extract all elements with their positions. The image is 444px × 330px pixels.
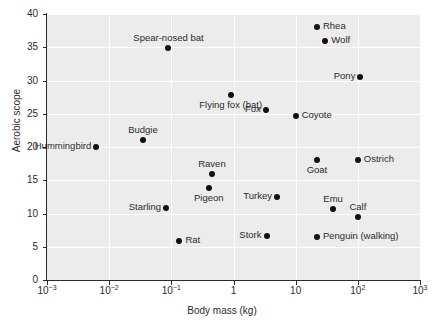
data-point-label: Rat bbox=[185, 235, 200, 245]
data-point-label: Starling bbox=[129, 202, 161, 212]
y-axis-tick-label: 35 bbox=[12, 42, 38, 52]
data-point-label: Hummingbird bbox=[35, 141, 92, 151]
data-point-label: Pigeon bbox=[194, 193, 224, 203]
x-axis-tick-label: 10−3 bbox=[27, 285, 67, 296]
data-point-label: Pony bbox=[334, 71, 356, 81]
data-point-label: Wolf bbox=[331, 35, 350, 45]
gridline-vertical bbox=[234, 14, 235, 280]
y-axis-title: Aerobic scope bbox=[11, 71, 22, 171]
y-axis-tick-label: 15 bbox=[12, 175, 38, 185]
gridline-vertical bbox=[296, 14, 297, 280]
y-axis-tick-label: 40 bbox=[12, 9, 38, 19]
x-axis-title: Body mass (kg) bbox=[0, 305, 444, 316]
y-axis-tick bbox=[43, 47, 47, 48]
data-point-label: Goat bbox=[307, 165, 328, 175]
data-point bbox=[293, 113, 299, 119]
x-axis-tick-label: 102 bbox=[338, 285, 378, 296]
data-point bbox=[274, 194, 280, 200]
data-point bbox=[330, 206, 336, 212]
y-axis-tick bbox=[43, 247, 47, 248]
data-point bbox=[322, 38, 328, 44]
aerobic-scope-scatter-figure: 051015202530354010−310−210−1110102103 Hu… bbox=[0, 0, 444, 330]
x-axis-tick-label: 10−1 bbox=[151, 285, 191, 296]
data-point-label: Coyote bbox=[302, 110, 332, 120]
y-axis-tick bbox=[43, 214, 47, 215]
data-point-label: Spear-nosed bat bbox=[133, 33, 203, 43]
data-point bbox=[264, 233, 270, 239]
x-axis-tick-label: 1 bbox=[214, 285, 254, 296]
y-axis-tick bbox=[43, 114, 47, 115]
data-point-label: Raven bbox=[198, 159, 225, 169]
data-point-label: Budgie bbox=[128, 125, 158, 135]
data-point-label: Emu bbox=[323, 194, 343, 204]
data-point-label: Fox bbox=[245, 104, 261, 114]
x-axis-tick-label: 10−2 bbox=[89, 285, 129, 296]
data-point-label: Stork bbox=[239, 230, 261, 240]
y-axis-tick-label: 0 bbox=[12, 275, 38, 285]
data-point-label: Turkey bbox=[243, 191, 272, 201]
gridline-vertical bbox=[171, 14, 172, 280]
x-axis-tick-label: 103 bbox=[400, 285, 440, 296]
data-point-label: Calf bbox=[349, 202, 366, 212]
data-point bbox=[314, 234, 320, 240]
data-point bbox=[206, 185, 212, 191]
y-axis-tick bbox=[43, 180, 47, 181]
data-point-label: Penguin (walking) bbox=[323, 231, 399, 241]
data-point-label: Ostrich bbox=[364, 154, 394, 164]
y-axis-tick bbox=[43, 14, 47, 15]
x-axis-tick-label: 10 bbox=[276, 285, 316, 296]
y-axis-tick-label: 10 bbox=[12, 209, 38, 219]
gridline-vertical bbox=[420, 14, 421, 280]
y-axis-tick bbox=[43, 81, 47, 82]
y-axis-tick-label: 5 bbox=[12, 242, 38, 252]
data-point bbox=[355, 214, 361, 220]
data-point-label: Rhea bbox=[323, 21, 346, 31]
gridline-vertical bbox=[109, 14, 110, 280]
data-point bbox=[228, 92, 234, 98]
